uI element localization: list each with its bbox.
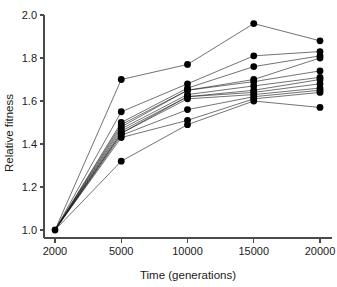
- data-point: [184, 106, 191, 113]
- y-axis-tick-label: 2.0: [22, 9, 37, 21]
- chart-canvas: 1.01.21.41.61.82.02000500010000150002000…: [0, 0, 337, 287]
- data-point: [317, 37, 324, 44]
- data-point: [184, 121, 191, 128]
- y-axis-tick-label: 1.4: [22, 138, 37, 150]
- x-axis-tick-label: 15000: [238, 245, 269, 257]
- data-point: [184, 61, 191, 68]
- data-point: [317, 55, 324, 62]
- data-point: [118, 158, 125, 165]
- axis-tick-labels-layer: 1.01.21.41.61.82.02000500010000150002000…: [22, 9, 336, 257]
- data-point: [317, 104, 324, 111]
- series-line: [55, 84, 320, 230]
- x-axis-tick-label: 5000: [109, 245, 133, 257]
- data-point: [118, 108, 125, 115]
- y-axis-tick-label: 1.2: [22, 181, 37, 193]
- data-point: [317, 89, 324, 96]
- y-axis-tick-label: 1.8: [22, 52, 37, 64]
- x-axis-tick-label: 2000: [43, 245, 67, 257]
- y-axis-title: Relative fitness: [3, 94, 15, 172]
- fitness-trajectory-chart: 1.01.21.41.61.82.02000500010000150002000…: [0, 0, 337, 287]
- data-point: [250, 63, 257, 70]
- data-point: [250, 98, 257, 105]
- data-point: [118, 134, 125, 141]
- data-points-layer: [52, 20, 324, 233]
- series-line: [55, 92, 320, 230]
- data-point: [317, 68, 324, 75]
- x-axis-tick-label: 10000: [172, 245, 203, 257]
- data-point: [250, 20, 257, 27]
- x-axis-tick-label: 20000: [305, 245, 336, 257]
- data-point: [118, 76, 125, 83]
- data-point: [52, 227, 59, 234]
- x-axis-title: Time (generations): [140, 269, 236, 281]
- y-axis-tick-label: 1.0: [22, 224, 37, 236]
- data-point: [184, 95, 191, 102]
- y-axis-tick-label: 1.6: [22, 95, 37, 107]
- data-point: [250, 52, 257, 59]
- series-line: [55, 52, 320, 230]
